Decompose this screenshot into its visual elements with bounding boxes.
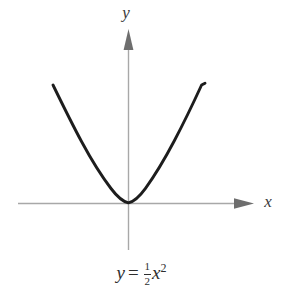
caption-variable: x	[152, 262, 160, 283]
caption-exponent: 2	[161, 261, 167, 275]
caption-equals: =	[128, 262, 139, 283]
parabola-figure: y x y=12x2	[0, 0, 283, 304]
fraction-numerator: 1	[144, 261, 152, 273]
plot-area	[0, 0, 283, 304]
caption-fraction: 12	[144, 261, 152, 287]
y-axis-arrowhead	[124, 29, 134, 50]
fraction-denominator: 2	[144, 276, 152, 288]
y-axis-label: y	[116, 4, 136, 21]
x-axis-arrowhead	[234, 198, 254, 209]
figure-caption: y=12x2	[0, 262, 283, 288]
x-axis-label: x	[258, 193, 278, 210]
caption-lhs: y	[116, 262, 124, 283]
